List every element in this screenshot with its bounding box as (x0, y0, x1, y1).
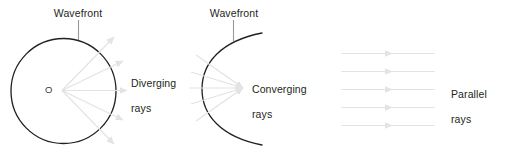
wavefront-label-diverging: Wavefront (38, 7, 118, 20)
diverging-ray-group (62, 37, 127, 144)
parallel-rays-label: Parallel rays (451, 75, 503, 125)
wavefront-ray-diagram: Wavefront O Diverging rays Wavefront Con… (0, 0, 505, 154)
diverging-ray (62, 91, 114, 145)
diverging-rays-label-line2: rays (131, 102, 151, 114)
converging-rays-label-line2: rays (252, 108, 272, 120)
circle-center-label: O (45, 85, 52, 95)
converging-ray (191, 72, 243, 88)
panel-parallel (341, 54, 435, 126)
converging-ray (196, 88, 243, 121)
converging-rays-label-line1: Converging (252, 83, 307, 95)
parallel-rays-label-line2: rays (451, 113, 471, 125)
converging-ray (191, 88, 243, 104)
diverging-rays-label-line1: Diverging (131, 77, 176, 89)
wavefront-label-converging: Wavefront (194, 7, 274, 20)
diverging-rays-label: Diverging rays (131, 64, 186, 114)
converging-rays-label: Converging rays (252, 70, 314, 120)
parallel-rays-label-line1: Parallel (451, 88, 487, 100)
parallel-ray-group (341, 54, 435, 126)
panel-diverging (11, 20, 127, 144)
converging-ray (196, 55, 243, 88)
converging-ray-group (189, 55, 243, 121)
